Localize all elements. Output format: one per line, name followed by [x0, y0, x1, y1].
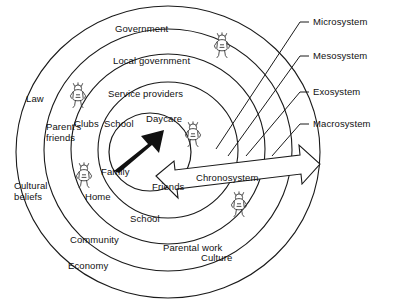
label-friends: Friends [152, 182, 184, 193]
label-daycare: Daycare [146, 114, 182, 125]
label-microsystem: Microsystem [313, 17, 367, 28]
label-law: Law [26, 94, 44, 105]
leader-lines [216, 22, 309, 156]
label-school-lower: School [130, 214, 160, 225]
child-figure-lower-right [231, 192, 246, 217]
diagram-canvas: Microsystem Mesosystem Exosystem Macrosy… [0, 0, 394, 306]
label-chronosystem: Chronosystem [196, 173, 258, 184]
label-clubs: Clubs [74, 119, 99, 130]
ecological-systems-svg [0, 0, 394, 306]
label-mesosystem: Mesosystem [313, 51, 367, 62]
label-home: Home [85, 192, 111, 203]
child-figure-left-lower [76, 163, 91, 188]
label-exosystem: Exosystem [313, 87, 360, 98]
child-figure-left-upper [70, 83, 85, 108]
label-cultural-beliefs: Culturalbeliefs [14, 181, 66, 202]
label-local-government: Local government [113, 56, 190, 67]
label-community: Community [70, 235, 119, 246]
child-figure-top [214, 33, 229, 58]
label-macrosystem: Macrosystem [313, 119, 371, 130]
label-economy: Economy [68, 261, 108, 272]
label-culture: Culture [201, 253, 232, 264]
label-school-outer: School [104, 119, 134, 130]
label-service-providers: Service providers [108, 89, 183, 100]
label-family: Family [101, 167, 130, 178]
label-government: Government [115, 24, 168, 35]
